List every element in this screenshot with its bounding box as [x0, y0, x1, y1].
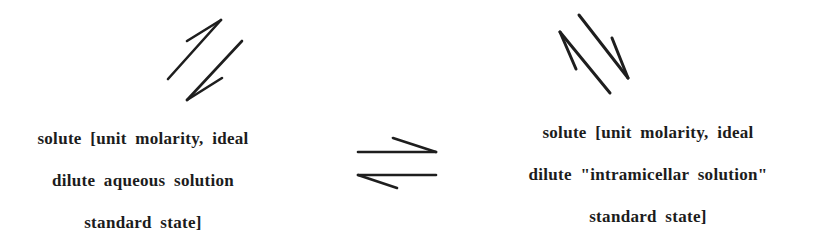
left-state-line-1: solute [unit molarity, ideal — [0, 118, 286, 160]
aqueous-standard-state-label: solute [unit molarity, ideal dilute aque… — [0, 118, 286, 244]
left-equilibrium-arrows-icon — [168, 20, 242, 100]
arrow-left-harpoon-icon — [358, 175, 436, 188]
right-state-line-3: standard state] — [500, 196, 796, 238]
right-state-line-1: solute [unit molarity, ideal — [500, 112, 796, 154]
arrow-down-right-icon — [579, 15, 628, 78]
left-state-line-3: standard state] — [0, 202, 286, 244]
arrow-up-left-icon — [560, 32, 610, 93]
right-equilibrium-arrows-icon — [560, 15, 628, 93]
center-equilibrium-arrows-icon — [358, 138, 436, 188]
left-state-line-2: dilute aqueous solution — [0, 160, 286, 202]
right-state-line-2: dilute "intramicellar solution" — [500, 154, 796, 196]
intramicellar-standard-state-label: solute [unit molarity, ideal dilute "int… — [500, 112, 796, 238]
arrow-right-harpoon-icon — [358, 138, 436, 152]
